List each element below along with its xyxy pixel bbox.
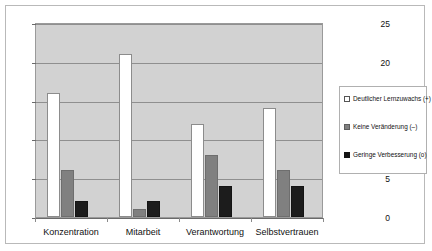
bar[interactable] xyxy=(277,170,290,217)
legend-item[interactable]: Geringe Verbesserung (o) xyxy=(344,151,427,158)
y-tick-label: 0 xyxy=(370,214,390,223)
chart-legend: Deutlicher Lernzuwachs (+)Keine Veränder… xyxy=(339,86,427,174)
x-tick xyxy=(323,218,324,222)
legend-label: Deutlicher Lernzuwachs (+) xyxy=(353,95,431,102)
bar[interactable] xyxy=(61,170,74,217)
bar[interactable] xyxy=(147,201,160,217)
bar-group xyxy=(47,23,88,217)
bar[interactable] xyxy=(205,155,218,217)
legend-label: Geringe Verbesserung (o) xyxy=(353,151,427,158)
y-tick-5 xyxy=(32,179,36,180)
bar[interactable] xyxy=(47,93,60,217)
y-tick-label: 5 xyxy=(370,175,390,184)
x-axis-label-verantwortung: Verantwortung xyxy=(179,227,251,238)
legend-swatch-icon xyxy=(344,152,350,158)
bar-group xyxy=(191,23,232,217)
bar[interactable] xyxy=(219,186,232,217)
bar[interactable] xyxy=(119,54,132,217)
legend-item[interactable]: Deutlicher Lernzuwachs (+) xyxy=(344,95,431,102)
bar-group xyxy=(119,23,160,217)
y-axis xyxy=(32,23,35,219)
legend-item[interactable]: Keine Veränderung (–) xyxy=(344,123,417,130)
bar-chart-figure: 0510152025 KonzentrationMitarbeitVerantw… xyxy=(0,0,432,251)
y-tick-10 xyxy=(32,140,36,141)
plot-area xyxy=(35,23,323,218)
x-tick xyxy=(251,218,252,222)
x-tick xyxy=(107,218,108,222)
y-tick-label: 20 xyxy=(370,59,390,68)
bar[interactable] xyxy=(133,209,146,217)
y-tick-25 xyxy=(32,24,36,25)
y-tick-label: 25 xyxy=(370,20,390,29)
x-tick xyxy=(179,218,180,222)
x-axis-label-mitarbeit: Mitarbeit xyxy=(107,227,179,238)
chart-frame: 0510152025 KonzentrationMitarbeitVerantw… xyxy=(5,5,425,244)
legend-swatch-icon xyxy=(344,124,350,130)
bar[interactable] xyxy=(291,186,304,217)
x-axis-label-selbstvertrauen: Selbstvertrauen xyxy=(251,227,323,238)
bar[interactable] xyxy=(263,108,276,217)
legend-swatch-icon xyxy=(344,96,350,102)
bar[interactable] xyxy=(191,124,204,217)
y-tick-15 xyxy=(32,102,36,103)
legend-label: Keine Veränderung (–) xyxy=(353,123,417,130)
x-tick xyxy=(35,218,36,222)
y-tick-20 xyxy=(32,63,36,64)
bar-group xyxy=(263,23,304,217)
x-axis-label-konzentration: Konzentration xyxy=(35,227,107,238)
bar[interactable] xyxy=(75,201,88,217)
